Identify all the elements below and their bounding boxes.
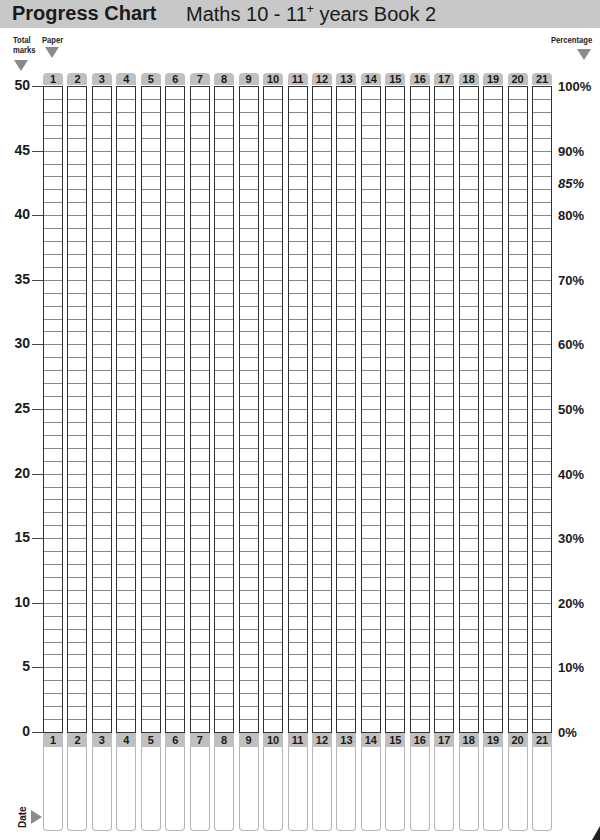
paper-number-bottom: 2 <box>67 733 87 747</box>
paper-number-bottom: 17 <box>434 733 454 747</box>
paper-score-column[interactable] <box>288 86 308 733</box>
y-tick-label: 15 <box>0 529 30 545</box>
date-entry-box[interactable] <box>410 747 430 831</box>
y-tick-label: 20 <box>0 465 30 481</box>
paper-score-column[interactable] <box>459 86 479 733</box>
y-tick-label: 45 <box>0 142 30 158</box>
paper-number-top: 18 <box>459 73 479 85</box>
paper-score-column[interactable] <box>190 86 210 733</box>
paper-number-bottom: 13 <box>336 733 356 747</box>
y-tick-label: 35 <box>0 271 30 287</box>
paper-number-bottom: 11 <box>288 733 308 747</box>
paper-number-bottom: 12 <box>312 733 332 747</box>
date-entry-box[interactable] <box>67 747 87 831</box>
paper-score-column[interactable] <box>483 86 503 733</box>
date-entry-box[interactable] <box>459 747 479 831</box>
paper-number-bottom: 6 <box>165 733 185 747</box>
header-bar: Progress Chart Maths 10 - 11+ years Book… <box>0 0 600 28</box>
paper-number-bottom: 3 <box>92 733 112 747</box>
percentage-tick-label: 80% <box>558 208 584 223</box>
date-label: Date <box>17 806 28 828</box>
paper-number-top: 8 <box>214 73 234 85</box>
date-entry-box[interactable] <box>43 747 63 831</box>
paper-number-bottom: 16 <box>410 733 430 747</box>
percentage-tick-label: 10% <box>558 660 584 675</box>
paper-number-bottom: 8 <box>214 733 234 747</box>
percentage-tick-label: 50% <box>558 402 584 417</box>
date-entry-box[interactable] <box>239 747 259 831</box>
paper-score-column[interactable] <box>336 86 356 733</box>
page-subtitle: Maths 10 - 11+ years Book 2 <box>186 2 436 26</box>
paper-number-top: 11 <box>288 73 308 85</box>
paper-score-column[interactable] <box>239 86 259 733</box>
paper-number-bottom: 14 <box>361 733 381 747</box>
y-tick-label: 30 <box>0 335 30 351</box>
paper-score-column[interactable] <box>141 86 161 733</box>
paper-number-bottom: 4 <box>116 733 136 747</box>
y-tick-label: 50 <box>0 77 30 93</box>
date-entry-box[interactable] <box>532 747 552 831</box>
date-entry-box[interactable] <box>483 747 503 831</box>
paper-number-top: 7 <box>190 73 210 85</box>
paper-number-top: 1 <box>43 73 63 85</box>
paper-number-top: 20 <box>508 73 528 85</box>
paper-score-column[interactable] <box>410 86 430 733</box>
paper-score-column[interactable] <box>116 86 136 733</box>
date-entry-box[interactable] <box>263 747 283 831</box>
total-marks-label: Total marks <box>13 35 36 55</box>
date-entry-box[interactable] <box>141 747 161 831</box>
percentage-label: Percentage <box>551 35 592 45</box>
percentage-tick-label: 20% <box>558 596 584 611</box>
paper-score-column[interactable] <box>312 86 332 733</box>
paper-score-column[interactable] <box>361 86 381 733</box>
paper-number-bottom: 20 <box>508 733 528 747</box>
paper-number-top: 2 <box>67 73 87 85</box>
date-entry-box[interactable] <box>165 747 185 831</box>
paper-score-column[interactable] <box>532 86 552 733</box>
y-tick-label: 0 <box>0 723 30 739</box>
percentage-tick-label: 100% <box>558 79 591 94</box>
paper-number-bottom: 15 <box>385 733 405 747</box>
date-entry-box[interactable] <box>508 747 528 831</box>
paper-number-top: 13 <box>336 73 356 85</box>
date-entry-box[interactable] <box>190 747 210 831</box>
paper-number-top: 3 <box>92 73 112 85</box>
paper-number-bottom: 19 <box>483 733 503 747</box>
paper-score-column[interactable] <box>214 86 234 733</box>
paper-number-bottom: 9 <box>239 733 259 747</box>
paper-number-top: 9 <box>239 73 259 85</box>
date-entry-box[interactable] <box>336 747 356 831</box>
paper-score-column[interactable] <box>508 86 528 733</box>
date-entry-box[interactable] <box>312 747 332 831</box>
page-corner-marker <box>592 826 600 840</box>
paper-number-top: 16 <box>410 73 430 85</box>
paper-score-column[interactable] <box>92 86 112 733</box>
paper-number-top: 6 <box>165 73 185 85</box>
paper-score-column[interactable] <box>165 86 185 733</box>
date-entry-box[interactable] <box>116 747 136 831</box>
paper-score-column[interactable] <box>67 86 87 733</box>
paper-score-column[interactable] <box>385 86 405 733</box>
paper-score-column[interactable] <box>434 86 454 733</box>
date-entry-box[interactable] <box>361 747 381 831</box>
date-entry-box[interactable] <box>92 747 112 831</box>
date-entry-box[interactable] <box>214 747 234 831</box>
paper-number-bottom: 10 <box>263 733 283 747</box>
percentage-tick-label: 60% <box>558 337 584 352</box>
date-entry-box[interactable] <box>288 747 308 831</box>
y-tick-label: 5 <box>0 658 30 674</box>
paper-number-bottom: 21 <box>532 733 552 747</box>
date-entry-box[interactable] <box>385 747 405 831</box>
paper-score-column[interactable] <box>43 86 63 733</box>
paper-number-top: 21 <box>532 73 552 85</box>
paper-number-top: 14 <box>361 73 381 85</box>
y-tick-label: 10 <box>0 594 30 610</box>
paper-number-bottom: 1 <box>43 733 63 747</box>
paper-number-top: 17 <box>434 73 454 85</box>
paper-score-column[interactable] <box>263 86 283 733</box>
percentage-tick-label: 90% <box>558 144 584 159</box>
total-marks-arrow-icon <box>14 60 28 71</box>
paper-arrow-icon <box>45 47 59 58</box>
paper-number-top: 12 <box>312 73 332 85</box>
date-entry-box[interactable] <box>434 747 454 831</box>
